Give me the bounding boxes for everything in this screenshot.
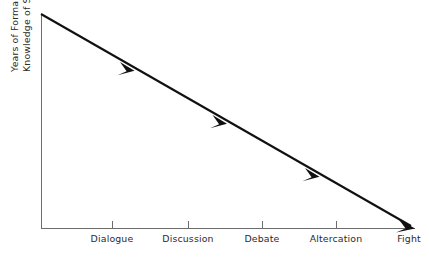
x-tick-label-dialogue: Dialogue xyxy=(91,233,134,244)
y-axis-label-line-1: Years of Formal Education and xyxy=(9,0,21,72)
data-series-line xyxy=(41,14,411,226)
x-tick-label-discussion: Discussion xyxy=(162,233,213,244)
direction-arrow-1 xyxy=(118,62,135,75)
x-tick-label-altercation: Altercation xyxy=(310,233,363,244)
y-axis-label: Years of Formal Education and Knowledge … xyxy=(9,0,32,72)
terminal-arrowhead xyxy=(396,219,415,232)
x-tick-label-debate: Debate xyxy=(244,233,279,244)
direction-arrow-2 xyxy=(210,115,227,128)
chart-figure: Years of Formal Education and Knowledge … xyxy=(0,0,429,264)
direction-arrow-3 xyxy=(303,168,320,181)
y-axis-label-line-2: Knowledge of Subject Matter xyxy=(21,0,33,72)
x-tick-label-fight: Fight xyxy=(397,233,421,244)
chart-plot-area xyxy=(0,0,429,264)
